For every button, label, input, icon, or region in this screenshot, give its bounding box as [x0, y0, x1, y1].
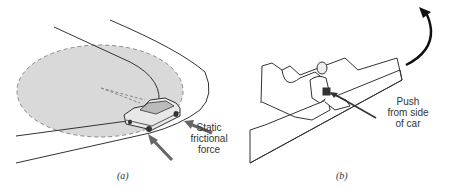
label-line: Push: [378, 96, 438, 107]
label-line: of car: [378, 118, 438, 129]
figure-canvas: [0, 0, 452, 189]
label-line: force: [174, 144, 244, 155]
friction-arrow-rear: [148, 134, 172, 160]
caption-b: (b): [336, 170, 348, 181]
rotation-arrow-icon: [406, 7, 431, 65]
push-label: Push from side of car: [378, 96, 438, 129]
static-friction-label: Static frictional force: [174, 122, 244, 155]
caption-a: (a): [117, 170, 129, 181]
label-line: Static: [174, 122, 244, 133]
label-line: frictional: [174, 133, 244, 144]
label-line: from side: [378, 107, 438, 118]
